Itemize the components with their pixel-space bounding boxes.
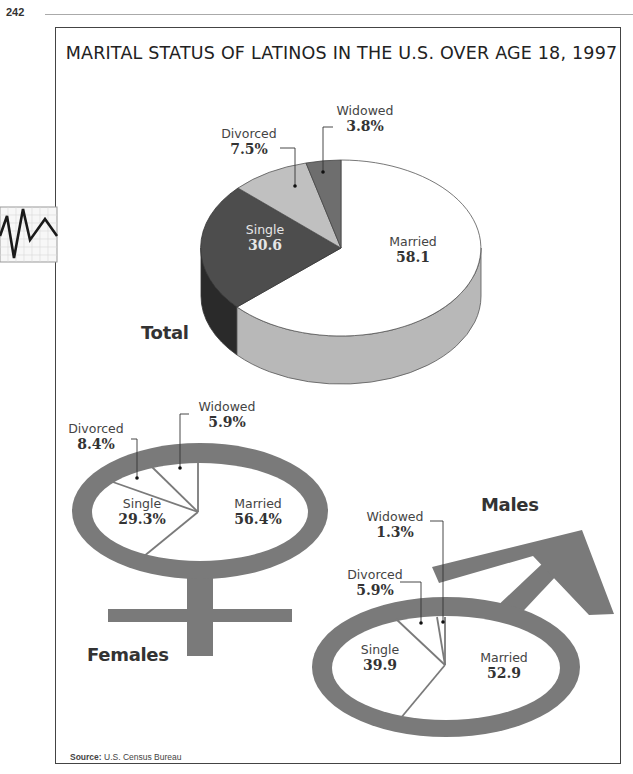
total-married-label: Married 58.1 bbox=[378, 235, 448, 265]
males-divorced-label: Divorced 5.9% bbox=[343, 568, 407, 598]
males-single-label: Single 39.9 bbox=[352, 643, 408, 673]
total-divorced-label: Divorced 7.5% bbox=[219, 127, 279, 157]
source-label: Source: bbox=[70, 752, 102, 762]
females-group-title: Females bbox=[87, 644, 169, 665]
males-married-label: Married 52.9 bbox=[469, 651, 539, 681]
source-note: Source: U.S. Census Bureau bbox=[70, 752, 182, 762]
females-divorced-label: Divorced 8.4% bbox=[64, 422, 128, 452]
total-single-label: Single 30.6 bbox=[235, 223, 295, 253]
males-group-title: Males bbox=[481, 494, 539, 515]
total-widowed-label: Widowed 3.8% bbox=[330, 104, 400, 134]
source-text: U.S. Census Bureau bbox=[104, 752, 181, 762]
females-widowed-label: Widowed 5.9% bbox=[192, 400, 262, 430]
ecg-decoration-icon bbox=[0, 207, 57, 262]
males-widowed-label: Widowed 1.3% bbox=[362, 510, 428, 540]
females-single-label: Single 29.3% bbox=[107, 497, 177, 527]
male-symbol-chart bbox=[312, 521, 614, 737]
total-group-title: Total bbox=[141, 322, 189, 343]
females-married-label: Married 56.4% bbox=[218, 497, 298, 527]
